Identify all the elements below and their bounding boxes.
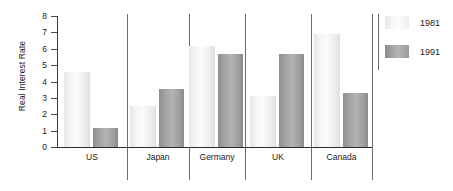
y-tick-label: 3 [33,94,47,103]
y-tick-mark [51,114,57,115]
y-tick-mark [51,98,57,99]
legend-divider-line [378,14,379,70]
bar-canada-1991 [343,93,368,147]
legend-label-1991: 1991 [420,47,440,57]
y-tick-mark [51,82,57,83]
bar-us-1991 [93,128,118,147]
y-tick-label: 0 [33,143,47,152]
bar-japan-1991 [159,89,184,147]
bar-japan-1981 [130,106,156,147]
bar-uk-1991 [279,54,304,147]
chart-legend: 19811991 [378,12,453,70]
y-tick-label: 4 [33,78,47,87]
category-label-canada: Canada [311,152,372,162]
y-tick-mark [51,131,57,132]
legend-entry-1991[interactable]: 1991 [385,45,440,58]
category-label-japan: Japan [127,152,189,162]
legend-swatch-1981 [385,16,409,29]
y-tick-label: 7 [33,28,47,37]
bar-uk-1981 [250,96,276,147]
y-axis-line [57,16,58,147]
y-tick-label: 5 [33,61,47,70]
bar-chart: Real Interest Rate 876543210 USJapanGerm… [0,0,453,191]
bar-germany-1981 [189,46,215,147]
category-label-uk: UK [245,152,311,162]
category-label-germany: Germany [189,152,245,162]
y-tick-label: 2 [33,110,47,119]
bar-canada-1981 [314,34,340,147]
y-tick-mark [51,49,57,50]
category-label-us: US [57,152,127,162]
bar-germany-1991 [218,54,243,147]
category-separator-5 [372,14,373,180]
y-tick-label: 6 [33,45,47,54]
y-tick-label: 8 [33,12,47,21]
y-axis-title: Real Interest Rate [17,16,27,136]
legend-entry-1981[interactable]: 1981 [385,16,440,29]
bar-us-1981 [64,72,90,147]
y-tick-mark [51,32,57,33]
y-tick-mark [51,65,57,66]
y-tick-mark [51,16,57,17]
legend-swatch-1991 [385,45,409,58]
x-axis-line [51,147,372,148]
y-tick-mark [51,147,57,148]
y-tick-label: 1 [33,127,47,136]
legend-label-1981: 1981 [420,18,440,28]
